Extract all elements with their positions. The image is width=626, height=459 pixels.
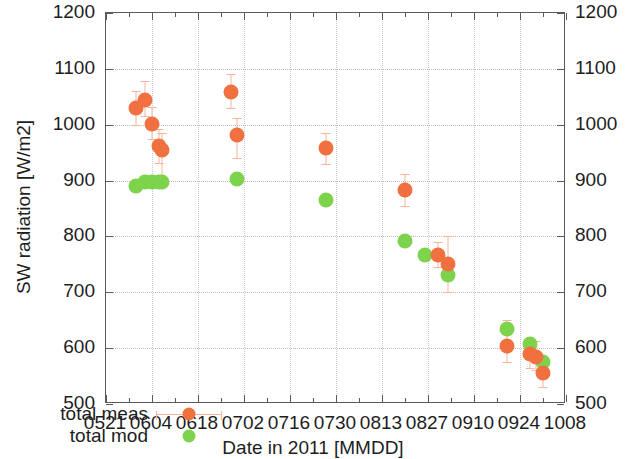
axis-tick [106,236,113,237]
axis-tick-minor [451,13,452,17]
axis-tick-minor [405,398,406,402]
axis-tick [290,13,291,20]
error-bar-cap [141,116,150,117]
axis-tick [198,13,199,20]
axis-tick [152,13,153,20]
error-bar-cap [401,174,410,175]
axis-tick [557,404,564,405]
plot-area [105,12,565,403]
y-axis-tick-label-right: 700 [575,281,607,300]
y-axis-tick-label-right: 1200 [575,2,617,21]
axis-tick [520,13,521,20]
axis-tick-minor [175,13,176,17]
error-bar-cap [154,129,163,130]
axis-tick-minor [359,13,360,17]
error-bar-cap [233,118,242,119]
x-axis-tick-label: 1008 [544,413,586,432]
x-axis-tick-label: 0910 [452,413,494,432]
y-axis-title: SW radiation [W/m2] [13,87,35,327]
y-axis-tick-label-right: 600 [575,337,607,356]
axis-tick-minor [267,398,268,402]
gridline-vertical [336,13,337,402]
axis-tick [106,13,113,14]
axis-tick [382,13,383,20]
data-point-mod [499,321,514,336]
gridline-vertical [152,13,153,402]
axis-tick [428,13,429,20]
axis-tick [557,292,564,293]
error-bar [158,129,159,163]
y-axis-tick-label: 1100 [54,58,95,77]
error-bar [161,133,162,178]
data-point-meas [499,338,514,353]
x-axis-tick-label: 0730 [314,413,356,432]
axis-tick [557,181,564,182]
axis-tick [557,13,564,14]
gridline-vertical [244,13,245,402]
axis-tick [106,181,113,182]
data-point-meas [154,142,169,157]
error-bar-cap [539,387,548,388]
data-point-meas [398,183,413,198]
data-points-layer [106,13,564,402]
chart-root: SW radiation [W/m2] 12001100100090080070… [0,0,626,459]
error-bar-cap [532,341,541,342]
error-bar [326,133,327,164]
y-axis-tick-label: 600 [63,337,95,356]
axis-tick-minor [313,398,314,402]
axis-tick-minor [497,13,498,17]
axis-tick-minor [221,13,222,17]
axis-tick-minor [267,13,268,17]
error-bar-cap [443,236,452,237]
gridline-horizontal [106,181,564,182]
gridline-vertical [198,13,199,402]
axis-tick [474,395,475,402]
error-bar [447,236,448,292]
error-bar-cap [539,358,548,359]
axis-tick [566,13,567,20]
axis-tick [106,348,113,349]
data-point-mod [417,248,432,263]
x-axis-tick-label: 0924 [498,413,540,432]
error-bar-cap [401,206,410,207]
error-bar-cap [148,107,157,108]
gridline-horizontal [106,69,564,70]
data-point-meas [536,365,551,380]
gridline-vertical [428,13,429,402]
data-point-mod [522,337,537,352]
data-point-meas [319,141,334,156]
error-bar-cap [525,368,534,369]
error-bar-cap [154,163,163,164]
data-point-mod [128,179,143,194]
axis-tick [557,348,564,349]
gridline-vertical [382,13,383,402]
y-axis-tick-label-right: 1000 [575,114,617,133]
axis-tick [557,125,564,126]
error-bar [437,242,438,267]
gridlines [106,13,564,402]
error-bar-cap [433,242,442,243]
y-axis-tick-label-right: 1100 [575,58,616,77]
axis-tick [106,125,113,126]
y-axis-tick-label: 700 [63,281,95,300]
error-bar [405,174,406,206]
data-point-meas [145,116,160,131]
gridline-horizontal [106,236,564,237]
error-bar-cap [148,139,157,140]
error-bar-cap [322,133,331,134]
data-point-mod [151,174,166,189]
axis-tick [566,395,567,402]
error-bar [237,118,238,158]
y-axis-tick-label: 900 [63,170,95,189]
axis-tick-minor [451,398,452,402]
data-point-meas [529,349,544,364]
error-bar-cap [525,338,534,339]
error-bar [145,81,146,116]
axis-tick [244,395,245,402]
data-point-meas [138,92,153,107]
data-point-mod [398,234,413,249]
gridline-horizontal [106,348,564,349]
axis-tick-minor [543,13,544,17]
axis-tick [382,395,383,402]
error-bar [230,74,231,108]
